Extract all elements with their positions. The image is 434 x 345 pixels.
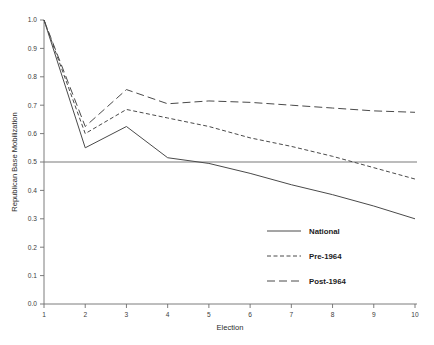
y-tick-label: 0.2	[28, 244, 37, 251]
x-tick-label: 3	[125, 311, 129, 318]
y-tick-label: 0.4	[28, 187, 37, 194]
y-axis-title: Republican Base Mobilization	[10, 112, 19, 212]
y-tick-label: 0.9	[28, 45, 37, 52]
legend-label-national: National	[309, 227, 340, 236]
series-line-post-1964	[44, 20, 415, 127]
y-tick-label: 0.0	[28, 300, 37, 307]
x-tick-label: 9	[372, 311, 376, 318]
x-tick-label: 5	[207, 311, 211, 318]
x-tick-label: 6	[248, 311, 252, 318]
series-line-national	[44, 20, 415, 219]
y-tick-label: 0.1	[28, 272, 37, 279]
x-tick-label: 10	[411, 311, 419, 318]
y-axis-ticks: 0.00.10.20.30.40.50.60.70.80.91.0	[28, 16, 44, 307]
y-tick-label: 0.5	[28, 158, 37, 165]
y-tick-label: 1.0	[28, 16, 37, 23]
legend-label-pre-1964: Pre-1964	[309, 252, 342, 261]
legend-label-post-1964: Post-1964	[309, 277, 347, 286]
y-tick-label: 0.6	[28, 130, 37, 137]
chart-legend: NationalPre-1964Post-1964	[267, 227, 347, 286]
x-tick-label: 8	[331, 311, 335, 318]
data-series-group	[44, 20, 415, 219]
x-axis-title: Election	[216, 323, 243, 332]
y-tick-label: 0.7	[28, 102, 37, 109]
x-axis-ticks: 12345678910	[42, 304, 419, 318]
line-chart: 0.00.10.20.30.40.50.60.70.80.91.0 123456…	[0, 0, 434, 345]
x-tick-label: 2	[83, 311, 87, 318]
chart-figure: 0.00.10.20.30.40.50.60.70.80.91.0 123456…	[0, 0, 434, 345]
y-tick-label: 0.8	[28, 73, 37, 80]
x-tick-label: 4	[166, 311, 170, 318]
y-tick-label: 0.3	[28, 215, 37, 222]
x-tick-label: 7	[289, 311, 293, 318]
series-line-pre-1964	[44, 20, 415, 179]
x-tick-label: 1	[42, 311, 46, 318]
